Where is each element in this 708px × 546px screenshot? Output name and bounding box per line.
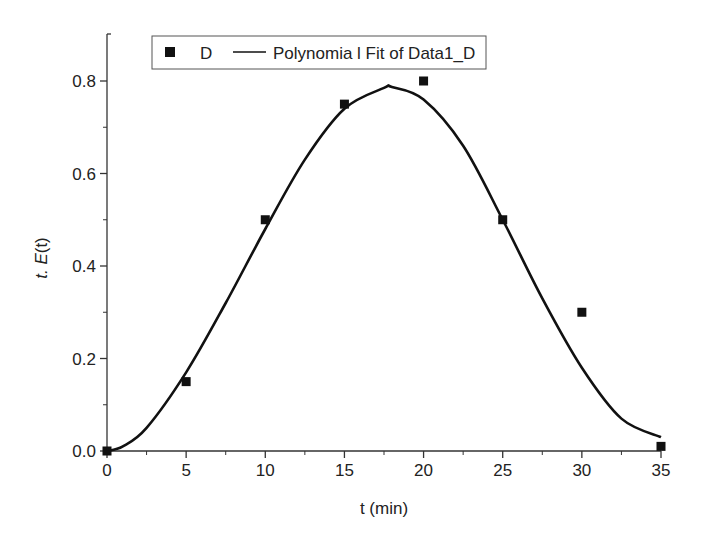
y-tick-label: 0.8 [72, 72, 96, 91]
y-tick-label: 0.2 [72, 350, 96, 369]
fit-curve [107, 85, 661, 451]
svg-text:t. E(t): t. E(t) [32, 237, 51, 279]
data-point-square-icon [419, 77, 428, 86]
x-tick-label: 5 [181, 461, 190, 480]
data-point-square-icon [657, 442, 666, 451]
data-point-square-icon [182, 377, 191, 386]
x-tick-label: 15 [335, 461, 354, 480]
y-tick-label: 0.0 [72, 442, 96, 461]
data-point-square-icon [103, 447, 112, 456]
y-axis-title-main: E [32, 253, 51, 265]
y-axis-title: t. E(t) [32, 237, 51, 279]
data-point-square-icon [261, 215, 270, 224]
legend: D Polynomia l Fit of Data1_D [152, 36, 486, 69]
legend-scatter-label: D [200, 44, 212, 63]
y-tick-label: 0.4 [72, 257, 96, 276]
legend-square-marker-icon [165, 47, 175, 57]
data-point-square-icon [577, 308, 586, 317]
x-tick-label: 25 [493, 461, 512, 480]
y-axis-title-arg: (t) [32, 237, 51, 253]
x-tick-label: 35 [652, 461, 671, 480]
data-markers [103, 77, 666, 456]
data-point-square-icon [498, 215, 507, 224]
legend-line-label: Polynomia l Fit of Data1_D [273, 44, 475, 63]
y-axis-title-prefix: t. [32, 265, 51, 279]
x-axis-title: t (min) [360, 499, 408, 518]
x-tick-label: 20 [414, 461, 433, 480]
x-tick-label: 10 [256, 461, 275, 480]
y-tick-label: 0.6 [72, 165, 96, 184]
axes: 0.00.20.40.60.805101520253035 [72, 34, 670, 480]
data-point-square-icon [340, 100, 349, 109]
polynomial-fit-line [107, 85, 661, 451]
x-tick-label: 0 [102, 461, 111, 480]
x-tick-label: 30 [572, 461, 591, 480]
chart: 0.00.20.40.60.805101520253035 D Polynomi… [0, 0, 708, 546]
